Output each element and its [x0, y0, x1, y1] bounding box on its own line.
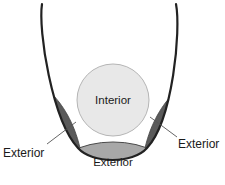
exterior-bottom-label: Exterior	[93, 156, 133, 168]
exterior-right-label: Exterior	[178, 137, 219, 151]
exterior-left-label: Exterior	[3, 146, 44, 160]
diagram-container: Interior Exterior Exterior Exterior	[0, 0, 225, 185]
interior-label: Interior	[95, 94, 131, 106]
parabola-interior-exterior-diagram: Interior Exterior Exterior Exterior	[0, 0, 225, 185]
